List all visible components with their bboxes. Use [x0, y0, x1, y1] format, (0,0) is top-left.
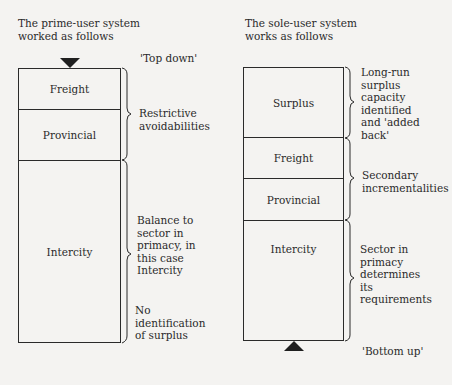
brace-balance-icon [122, 160, 131, 343]
brace-restrictive-icon [122, 68, 131, 160]
braces [122, 67, 354, 343]
brace-secondary-icon [345, 138, 354, 220]
down-arrow-icon [60, 58, 80, 68]
brace-sector-icon [345, 220, 354, 341]
up-arrow-icon [284, 341, 304, 351]
diagram-graphics [0, 0, 452, 385]
brace-surplus-icon [345, 67, 354, 138]
